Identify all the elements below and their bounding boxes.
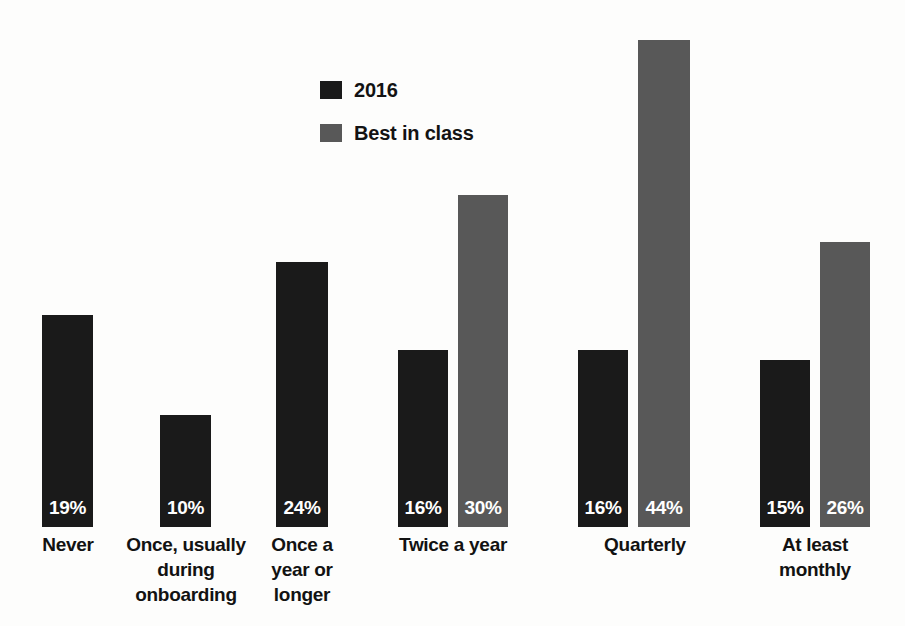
bar-fill xyxy=(42,315,93,527)
bar-fill xyxy=(276,262,328,527)
bar-fill xyxy=(458,195,508,527)
bar-onboarding-2016[interactable]: 10% xyxy=(160,415,211,527)
bar-value-label: 26% xyxy=(820,497,870,519)
bar-value-label: 19% xyxy=(42,497,93,519)
x-axis-labels: Never Once, usuallyduringonboarding Once… xyxy=(0,532,905,626)
x-axis-label-line: Twice a year xyxy=(378,532,528,557)
bar-twice-a-year-best[interactable]: 30% xyxy=(458,195,508,527)
bar-value-label: 30% xyxy=(458,497,508,519)
bar-never-2016[interactable]: 19% xyxy=(42,315,93,527)
x-axis-label-onboarding: Once, usuallyduringonboarding xyxy=(116,532,256,607)
bar-at-least-monthly-best[interactable]: 26% xyxy=(820,242,870,527)
x-axis-label-line: Once a xyxy=(250,532,354,557)
bar-value-label: 24% xyxy=(276,497,328,519)
bar-chart: 2016 Best in class 19% 10% 24% 16% 30% xyxy=(0,0,905,626)
x-axis-label-never: Never xyxy=(17,532,119,557)
x-axis-label-quarterly: Quarterly xyxy=(565,532,725,557)
x-axis-label-line: Once, usually xyxy=(116,532,256,557)
x-axis-label-at-least-monthly: At leastmonthly xyxy=(744,532,886,582)
x-axis-label-once-a-year: Once ayear orlonger xyxy=(250,532,354,607)
x-axis-label-line: during xyxy=(116,557,256,582)
bar-value-label: 16% xyxy=(578,497,628,519)
bar-quarterly-2016[interactable]: 16% xyxy=(578,350,628,527)
plot-area: 19% 10% 24% 16% 30% 16% 44% 15% xyxy=(0,0,905,527)
x-axis-label-line: Never xyxy=(17,532,119,557)
bar-fill xyxy=(820,242,870,527)
x-axis-label-line: monthly xyxy=(744,557,886,582)
x-axis-label-line: year or xyxy=(250,557,354,582)
x-axis-label-line: onboarding xyxy=(116,582,256,607)
bar-fill xyxy=(638,40,690,527)
bar-value-label: 10% xyxy=(160,497,211,519)
bar-at-least-monthly-2016[interactable]: 15% xyxy=(760,360,810,527)
bar-quarterly-best[interactable]: 44% xyxy=(638,40,690,527)
x-axis-label-line: Quarterly xyxy=(565,532,725,557)
bar-value-label: 16% xyxy=(398,497,448,519)
bar-once-a-year-2016[interactable]: 24% xyxy=(276,262,328,527)
bar-twice-a-year-2016[interactable]: 16% xyxy=(398,350,448,527)
x-axis-label-twice-a-year: Twice a year xyxy=(378,532,528,557)
x-axis-label-line: At least xyxy=(744,532,886,557)
bar-value-label: 44% xyxy=(638,497,690,519)
x-axis-label-line: longer xyxy=(250,582,354,607)
bar-value-label: 15% xyxy=(760,497,810,519)
